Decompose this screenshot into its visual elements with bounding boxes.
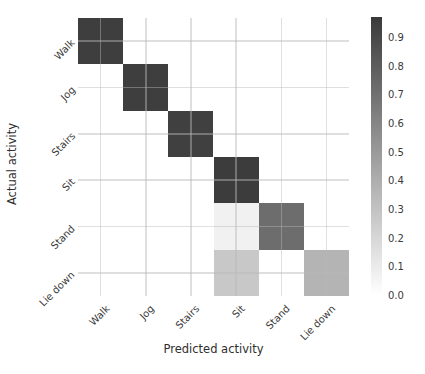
x-tick-label-stand: Stand xyxy=(264,303,292,331)
colorbar-tick-0.3: 0.3 xyxy=(388,204,404,215)
colorbar-gradient xyxy=(371,17,382,295)
heatmap-cell-stairs-stairs xyxy=(168,111,213,157)
heatmap-cell-stand-stand xyxy=(259,203,304,249)
y-tick-label-sit: Sit xyxy=(60,176,77,193)
x-tick-label-jog: Jog xyxy=(138,303,157,322)
x-tick-label-sit: Sit xyxy=(230,303,247,320)
heatmap-cell-stand-sit xyxy=(214,203,259,249)
colorbar-tick-labels: 0.90.80.70.60.50.40.30.20.10.0 xyxy=(388,17,418,295)
y-tick-label-stairs: Stairs xyxy=(49,130,77,158)
colorbar-tick-0.5: 0.5 xyxy=(388,146,404,157)
x-tick-label-stairs: Stairs xyxy=(174,303,202,331)
gridline-vertical xyxy=(190,18,192,296)
x-axis-title: Predicted activity xyxy=(78,342,349,356)
x-tick-label-lie-down: Lie down xyxy=(298,303,337,342)
colorbar-tick-0.2: 0.2 xyxy=(388,232,404,243)
heatmap-cell-lie-down-sit xyxy=(214,250,259,296)
x-tick-label-walk: Walk xyxy=(87,303,112,328)
heatmap-cell-sit-sit xyxy=(214,157,259,203)
confusion-matrix-figure: WalkJogStairsSitStandLie down WalkJogSta… xyxy=(0,0,425,374)
y-tick-label-walk: Walk xyxy=(52,37,77,62)
colorbar-tick-0.8: 0.8 xyxy=(388,60,404,71)
heatmap-axes xyxy=(78,18,349,296)
colorbar-tick-0.9: 0.9 xyxy=(388,32,404,43)
heatmap-cell-lie-down-lie-down xyxy=(304,250,349,296)
colorbar-tick-0.1: 0.1 xyxy=(388,261,404,272)
gridline-horizontal xyxy=(78,87,349,89)
y-tick-label-stand: Stand xyxy=(49,223,77,251)
y-tick-label-lie-down: Lie down xyxy=(38,269,77,308)
heatmap-cell-jog-jog xyxy=(123,64,168,110)
colorbar-tick-0.6: 0.6 xyxy=(388,118,404,129)
y-tick-label-jog: Jog xyxy=(58,84,77,103)
y-axis-title: Actual activity xyxy=(5,104,19,224)
gridline-horizontal xyxy=(78,133,349,135)
colorbar-tick-0.0: 0.0 xyxy=(388,290,404,301)
colorbar-tick-0.4: 0.4 xyxy=(388,175,404,186)
colorbar-tick-0.7: 0.7 xyxy=(388,89,404,100)
gridline-vertical xyxy=(281,18,283,296)
gridline-vertical xyxy=(145,18,147,296)
heatmap-cell-walk-walk xyxy=(78,18,123,64)
